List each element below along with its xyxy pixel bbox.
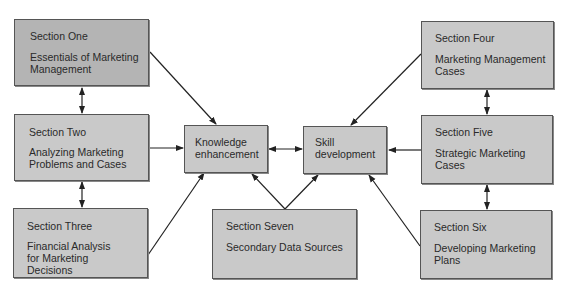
section-four-box: Section Four Marketing Management Cases [421,21,554,89]
knowledge-enhancement-label: Knowledge enhancement [195,136,259,160]
section-two-box: Section Two Analyzing Marketing Problems… [14,114,149,181]
section-three-title: Section Three [27,220,92,232]
section-two-title: Section Two [29,126,86,138]
section-six-box: Section Six Developing Marketing Plans [420,210,552,279]
section-four-title: Section Four [435,32,495,44]
section-seven-box: Section Seven Secondary Data Sources [212,209,357,279]
section-five-box: Section Five Strategic Marketing Cases [421,115,553,184]
section-four-desc: Marketing Management Cases [435,53,545,77]
section-five-title: Section Five [435,126,493,138]
skill-development-box: Skill development [303,126,387,174]
skill-development-label: Skill development [315,136,375,160]
section-one-title: Section One [30,30,88,42]
section-six-desc: Developing Marketing Plans [434,242,536,266]
section-three-box: Section Three Financial Analysis for Mar… [13,208,148,278]
section-six-title: Section Six [434,221,487,233]
knowledge-enhancement-box: Knowledge enhancement [184,125,268,173]
section-two-desc: Analyzing Marketing Problems and Cases [29,146,126,170]
section-one-desc: Essentials of Marketing Management [30,51,139,75]
section-five-desc: Strategic Marketing Cases [435,147,525,171]
section-three-desc: Financial Analysis for Marketing Decisio… [27,240,110,276]
section-seven-title: Section Seven [226,220,294,232]
section-seven-desc: Secondary Data Sources [226,241,343,253]
section-one-box: Section One Essentials of Marketing Mana… [14,19,149,86]
